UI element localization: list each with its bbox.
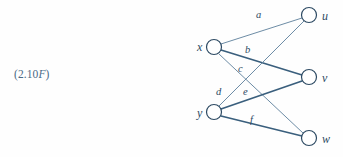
node-label-v: v <box>322 71 328 85</box>
edge-f <box>221 116 302 136</box>
nodes-group <box>207 8 317 146</box>
edge-d <box>219 21 304 106</box>
node-v <box>302 70 317 85</box>
node-label-x: x <box>196 40 203 54</box>
node-w <box>302 131 317 146</box>
edge-a <box>221 18 302 44</box>
edge-label-a: a <box>256 9 261 20</box>
node-label-w: w <box>322 132 330 146</box>
edge-label-e: e <box>243 86 248 97</box>
node-y <box>207 105 222 120</box>
edges-group <box>219 18 304 136</box>
edge-e <box>221 81 302 109</box>
node-label-y: y <box>196 106 203 120</box>
node-label-u: u <box>322 9 328 23</box>
node-x <box>207 40 222 55</box>
bipartite-graph-diagram: abcdef xyuvw <box>0 0 343 157</box>
edge-label-d: d <box>216 86 222 97</box>
edge-b <box>221 50 302 75</box>
node-u <box>302 8 317 23</box>
edge-label-b: b <box>245 44 250 55</box>
edge-label-c: c <box>238 63 243 74</box>
figure-canvas: (2.10F) abcdef xyuvw <box>0 0 343 157</box>
